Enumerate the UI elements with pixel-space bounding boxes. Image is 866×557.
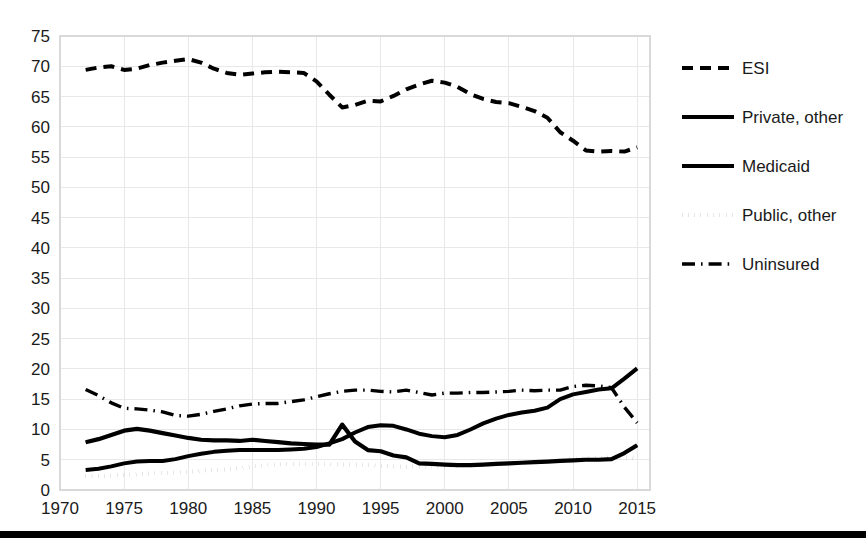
x-tick-label: 2010 xyxy=(554,499,592,518)
y-tick-label: 50 xyxy=(31,178,50,197)
y-tick-label: 45 xyxy=(31,209,50,228)
x-tick-label: 2015 xyxy=(618,499,656,518)
x-tick-label: 1990 xyxy=(298,499,336,518)
y-tick-label: 30 xyxy=(31,299,50,318)
legend-label: Private, other xyxy=(742,108,843,127)
y-tick-label: 25 xyxy=(31,330,50,349)
insurance-coverage-line-chart: 051015202530354045505560657075 197019751… xyxy=(0,0,866,557)
y-tick-label: 75 xyxy=(31,27,50,46)
y-tick-label: 40 xyxy=(31,239,50,258)
y-tick-label: 15 xyxy=(31,390,50,409)
x-tick-label: 1995 xyxy=(362,499,400,518)
y-tick-label: 35 xyxy=(31,269,50,288)
legend-label: Medicaid xyxy=(742,157,810,176)
x-tick-label: 1985 xyxy=(233,499,271,518)
x-tick-label: 2005 xyxy=(490,499,528,518)
y-tick-label: 20 xyxy=(31,360,50,379)
x-tick-label: 2000 xyxy=(426,499,464,518)
legend-label: Uninsured xyxy=(742,255,820,274)
y-tick-label: 70 xyxy=(31,57,50,76)
y-tick-label: 60 xyxy=(31,118,50,137)
y-tick-label: 55 xyxy=(31,148,50,167)
x-tick-label: 1980 xyxy=(169,499,207,518)
y-tick-label: 65 xyxy=(31,88,50,107)
y-tick-label: 0 xyxy=(41,481,50,500)
legend-label: ESI xyxy=(742,59,769,78)
chart-figure: 051015202530354045505560657075 197019751… xyxy=(0,0,866,557)
x-tick-label: 1975 xyxy=(105,499,143,518)
legend-label: Public, other xyxy=(742,206,837,225)
x-tick-label: 1970 xyxy=(41,499,79,518)
y-tick-label: 10 xyxy=(31,420,50,439)
bottom-divider-rule xyxy=(0,531,866,538)
y-tick-label: 5 xyxy=(41,451,50,470)
